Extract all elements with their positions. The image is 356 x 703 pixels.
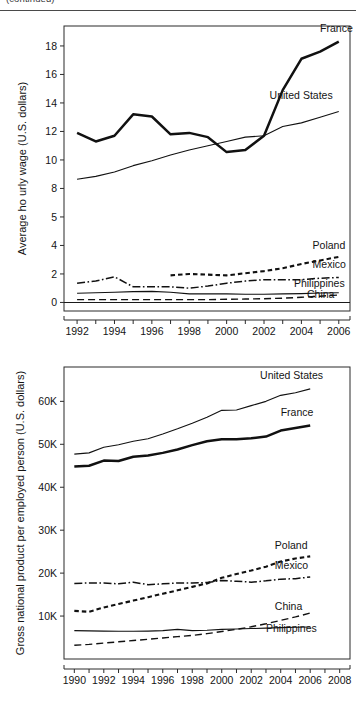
average-hourly-wage-svg: 0245810121416181992199419961998200020022… <box>0 12 356 351</box>
y-tick-label: 18 <box>45 40 57 52</box>
x-tick-label: 1998 <box>178 325 202 337</box>
y-axis-title: Average ho urly wage (U.S. dollars) <box>16 82 28 255</box>
y-tick-label: 10 <box>45 154 57 166</box>
gnp-per-employed-person-svg: 10K20K30K40K50K60K1990199219941996199820… <box>0 355 356 703</box>
series-line-philippines <box>77 291 339 294</box>
x-tick-label: 2002 <box>240 674 264 686</box>
x-tick-label: 1994 <box>122 674 146 686</box>
y-tick-label: 14 <box>45 97 57 109</box>
x-tick-label: 2004 <box>290 325 314 337</box>
series-line-united-states <box>77 112 339 180</box>
series-label-china: China <box>307 288 335 300</box>
series-label-philippines: Philippines <box>266 622 317 634</box>
series-label-china: China <box>275 600 303 612</box>
x-tick-label: 2006 <box>327 325 351 337</box>
series-label-france: France <box>320 22 353 34</box>
series-line-china <box>77 295 339 300</box>
running-header: (continued) <box>0 0 356 12</box>
running-header-text: (continued) <box>6 0 55 4</box>
series-label-united-states: United States <box>260 369 323 381</box>
y-axis-title: Gross national product per employed pers… <box>14 371 26 655</box>
x-tick-label: 2004 <box>269 674 293 686</box>
y-tick-label: 10K <box>38 610 57 622</box>
y-tick-label: 40K <box>38 481 57 493</box>
series-label-poland: Poland <box>275 539 308 551</box>
y-tick-label: 5 <box>51 211 57 223</box>
x-tick-label: 2000 <box>210 674 234 686</box>
series-label-france: France <box>281 406 314 418</box>
x-tick-label: 1994 <box>103 325 127 337</box>
header-divider-rule <box>0 10 356 11</box>
x-tick-label: 1996 <box>140 325 164 337</box>
y-tick-label: 50K <box>38 438 57 450</box>
series-label-united-states: United States <box>270 89 333 101</box>
y-tick-label: 4 <box>51 239 57 251</box>
x-tick-label: 1996 <box>151 674 175 686</box>
x-tick-label: 1992 <box>65 325 89 337</box>
x-tick-label: 2008 <box>328 674 352 686</box>
series-label-mexico: Mexico <box>313 258 346 270</box>
figure-page: (continued) 0245810121416181992199419961… <box>0 0 356 703</box>
y-tick-label: 0 <box>51 296 57 308</box>
x-tick-label: 1998 <box>181 674 205 686</box>
y-tick-label: 8 <box>51 182 57 194</box>
y-tick-label: 12 <box>45 125 57 137</box>
chart-average-hourly-wage: 0245810121416181992199419961998200020022… <box>0 12 356 351</box>
plot-frame <box>64 26 350 311</box>
x-tick-label: 1990 <box>63 674 87 686</box>
x-tick-label: 1992 <box>92 674 116 686</box>
chart-gnp-per-employed-person: 10K20K30K40K50K60K1990199219941996199820… <box>0 355 356 703</box>
x-tick-label: 2000 <box>215 325 239 337</box>
y-tick-label: 16 <box>45 68 57 80</box>
x-tick-label: 2002 <box>252 325 276 337</box>
series-line-mexico <box>74 577 310 585</box>
y-tick-label: 30K <box>38 524 57 536</box>
x-tick-label: 2006 <box>299 674 323 686</box>
series-label-mexico: Mexico <box>275 559 308 571</box>
y-tick-label: 60K <box>38 395 57 407</box>
y-tick-label: 20K <box>38 567 57 579</box>
series-label-poland: Poland <box>313 239 346 251</box>
y-tick-label: 2 <box>51 268 57 280</box>
